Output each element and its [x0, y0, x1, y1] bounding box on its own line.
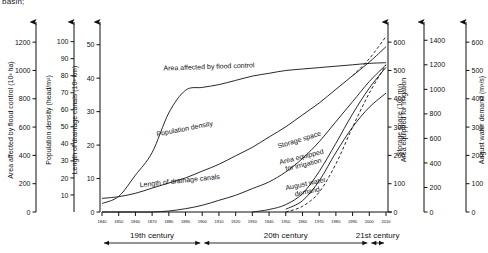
- year-tick-label: 2010: [381, 219, 391, 224]
- axis-tick-label-population: 100: [57, 38, 69, 45]
- year-tick-label: 1870: [148, 219, 158, 224]
- year-tick-label: 1960: [298, 219, 308, 224]
- century-band-arrow-right: [379, 241, 384, 245]
- century-band-arrow-left: [371, 241, 376, 245]
- axis-title-storage: Storage space (10⁶ m³): [396, 84, 404, 157]
- axis-tick-label-population: 10: [61, 192, 69, 199]
- year-tick-label: 1850: [114, 219, 124, 224]
- year-tick-label: 1890: [181, 219, 191, 224]
- year-tick-label: 1860: [131, 219, 141, 224]
- curve-label: Area equippedfor irrigation: [278, 148, 326, 175]
- axis-tick-label-demand: 100: [472, 180, 484, 187]
- year-tick-label: 1910: [214, 219, 224, 224]
- axis-tick-label-storage: 400: [430, 160, 442, 167]
- axis-tick-label-population: 40: [61, 140, 69, 147]
- axis-title-population: Population density (head/m²): [45, 75, 53, 165]
- series-curve-population: [102, 47, 386, 199]
- year-axis: 1840185018601870188018901900191019201930…: [97, 212, 392, 224]
- century-band-arrow-right: [362, 241, 367, 245]
- century-band-label: 21st century: [356, 231, 400, 240]
- axis-tick-label-flood: 600: [19, 124, 31, 131]
- axis-tick-label-irrigation: 100: [394, 180, 406, 187]
- axis-tick-label-storage: 200: [430, 184, 442, 191]
- axis-tick-label-flood: 200: [19, 180, 31, 187]
- century-band-arrow-left: [204, 241, 209, 245]
- axis-tick-label-demand: 0: [472, 209, 476, 216]
- year-tick-label: 1880: [164, 219, 174, 224]
- axis-tick-label-canals: 0: [91, 209, 95, 216]
- axis-tick-label-irrigation: 0: [394, 209, 398, 216]
- axis-storage: 0200400600800100012001400: [424, 22, 445, 216]
- year-tick-label: 2000: [365, 219, 375, 224]
- axis-tick-label-storage: 0: [430, 209, 434, 216]
- century-band-label: 20th century: [264, 231, 308, 240]
- century-bands: 19th century20th century21st century: [104, 231, 399, 245]
- axis-title-flood: Area affected by flood control (10³ ha): [7, 61, 15, 178]
- curve-label: Area affected by flood control: [163, 61, 255, 72]
- axis-flood: 020040060080010001200: [15, 22, 36, 216]
- axis-tick-label-storage: 1400: [430, 37, 446, 44]
- axis-tick-label-population: 90: [61, 55, 69, 62]
- year-tick-label: 1950: [281, 219, 291, 224]
- axis-tick-label-canals: 40: [87, 75, 95, 82]
- axis-tick-label-flood: 800: [19, 95, 31, 102]
- axis-tick-label-storage: 1000: [430, 86, 446, 93]
- multi-axis-line-chart: 020040060080010001200Area affected by fl…: [0, 0, 488, 253]
- axis-tick-label-flood: 1200: [15, 39, 31, 46]
- axis-tick-label-population: 20: [61, 175, 69, 182]
- axis-title-canals: Length of drainage canals (10³ km): [71, 66, 79, 175]
- axis-tick-label-storage: 800: [430, 110, 442, 117]
- axis-tick-label-canals: 20: [87, 142, 95, 149]
- axis-canals: 01020304050: [87, 22, 100, 216]
- year-tick-label: 1930: [248, 219, 258, 224]
- axis-tick-label-storage: 600: [430, 135, 442, 142]
- axis-tick-label-irrigation: 600: [394, 39, 406, 46]
- curve-label: Storage space: [277, 130, 323, 151]
- year-tick-label: 1840: [97, 219, 107, 224]
- year-tick-label: 1990: [348, 219, 358, 224]
- year-tick-label: 1970: [315, 219, 325, 224]
- axis-tick-label-demand: 500: [472, 67, 484, 74]
- axis-tick-label-flood: 1000: [15, 67, 31, 74]
- axis-tick-label-population: 70: [61, 89, 69, 96]
- axis-tick-label-flood: 400: [19, 152, 31, 159]
- year-tick-label: 1900: [198, 219, 208, 224]
- axis-title-demand: August water demand (m³/s): [478, 76, 486, 164]
- axis-tick-label-storage: 1200: [430, 61, 446, 68]
- century-band-arrow-right: [195, 241, 200, 245]
- chart-root: basin; 020040060080010001200Area affecte…: [0, 0, 488, 253]
- century-band-label: 19th century: [130, 231, 174, 240]
- year-tick-label: 1920: [231, 219, 241, 224]
- curve-label: Length of drainage canals: [139, 173, 220, 189]
- axis-tick-label-canals: 10: [87, 175, 95, 182]
- curve-label: August waterdemand: [285, 176, 329, 199]
- axis-tick-label-demand: 600: [472, 39, 484, 46]
- axis-tick-label-population: 30: [61, 157, 69, 164]
- year-tick-label: 1980: [331, 219, 341, 224]
- series-curve-canals: [102, 65, 386, 212]
- axis-tick-label-population: 80: [61, 72, 69, 79]
- century-band-arrow-left: [104, 241, 109, 245]
- axis-tick-label-population: 60: [61, 106, 69, 113]
- axis-tick-label-irrigation: 500: [394, 67, 406, 74]
- axis-tick-label-population: 50: [61, 123, 69, 130]
- axis-tick-label-canals: 50: [87, 41, 95, 48]
- axis-tick-label-flood: 0: [27, 209, 31, 216]
- axis-tick-label-canals: 30: [87, 108, 95, 115]
- year-tick-label: 1940: [265, 219, 275, 224]
